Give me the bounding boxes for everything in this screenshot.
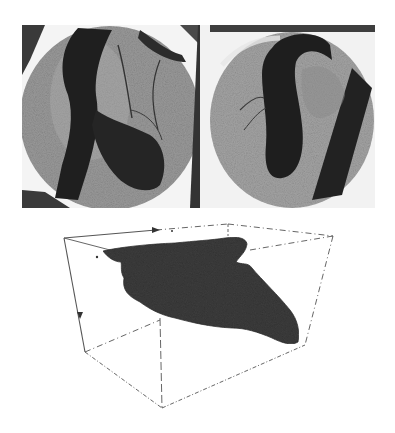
box-edge bbox=[64, 238, 110, 250]
box-edge bbox=[85, 352, 162, 408]
box-edge bbox=[85, 320, 160, 352]
box-edge bbox=[250, 236, 333, 250]
reconstructed-surface bbox=[103, 237, 299, 344]
angiogram-left-panel bbox=[20, 25, 200, 210]
reconstruction-3d-panel bbox=[64, 224, 333, 408]
box-edge bbox=[162, 345, 305, 408]
figure bbox=[0, 0, 395, 433]
figure-canvas bbox=[0, 0, 395, 433]
box-edge bbox=[305, 236, 333, 345]
box-edge bbox=[160, 318, 162, 408]
box-edge bbox=[228, 224, 333, 236]
axis-arrow-icon bbox=[152, 227, 160, 233]
box-edge bbox=[156, 224, 228, 230]
box-edge bbox=[64, 230, 156, 238]
angiogram-right-panel bbox=[200, 25, 375, 208]
frame-top-band bbox=[210, 25, 375, 32]
box-edge bbox=[64, 238, 85, 352]
